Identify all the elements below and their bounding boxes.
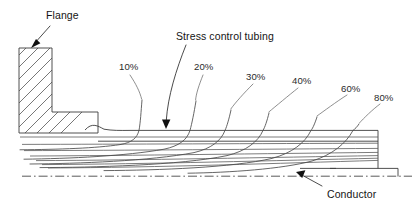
conductor-base-step: [330, 168, 398, 176]
label-flange: Flange: [46, 10, 79, 21]
flange-hatching: [0, 10, 184, 204]
diagram-root: Flange Stress control tubing Conductor 1…: [0, 0, 420, 216]
tubing-leader: [162, 45, 186, 129]
label-equipotential-40: 40%: [292, 76, 312, 86]
label-equipotential-20: 20%: [194, 62, 214, 72]
flange-outline: [19, 48, 98, 133]
label-equipotential-80: 80%: [374, 93, 394, 103]
arrow-head-icon: [162, 119, 170, 129]
arrow-head-icon: [296, 170, 305, 178]
conductor-leader: [296, 170, 322, 186]
label-stress-control-tubing: Stress control tubing: [176, 31, 274, 42]
arrow-head-icon: [31, 39, 40, 48]
tubing-upper-surface: [85, 125, 378, 130]
flange-leader: [31, 26, 50, 48]
label-equipotential-10: 10%: [119, 62, 139, 72]
label-equipotential-30: 30%: [246, 72, 266, 82]
label-conductor: Conductor: [327, 189, 376, 200]
label-equipotential-60: 60%: [341, 84, 361, 94]
flange-body: [0, 10, 184, 204]
